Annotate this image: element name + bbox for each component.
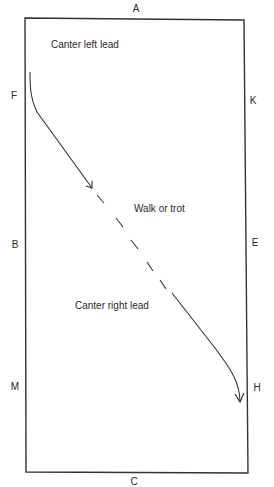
marker-h: H: [250, 383, 264, 393]
marker-f: F: [7, 91, 21, 101]
path-canter-right-lead: [172, 293, 240, 402]
path-canter-left-lead: [30, 72, 92, 188]
marker-m: M: [8, 382, 22, 392]
label-canter-left-lead: Canter left lead: [51, 39, 119, 50]
marker-e: E: [248, 238, 262, 248]
label-walk-or-trot: Walk or trot: [134, 203, 185, 214]
marker-b: B: [8, 240, 22, 250]
marker-c: C: [127, 477, 141, 487]
arena-diagram: A F K B E M H C Canter left lead Walk or…: [0, 0, 274, 487]
marker-a: A: [129, 4, 143, 14]
marker-k: K: [246, 96, 260, 106]
label-canter-right-lead: Canter right lead: [75, 300, 149, 311]
arena-border: [25, 18, 248, 473]
arena-svg: [0, 0, 274, 487]
